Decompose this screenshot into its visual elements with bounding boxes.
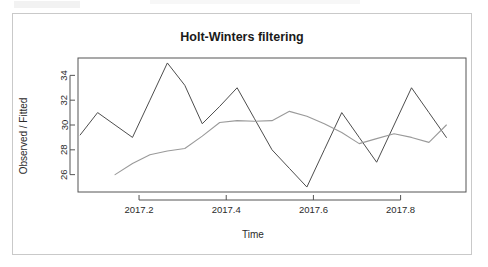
x-axis-title: Time <box>242 229 264 240</box>
x-axis-tick-label: 2017.6 <box>299 204 328 215</box>
y-axis-tick-label: 34 <box>59 70 70 81</box>
y-axis-tick-label: 30 <box>59 120 70 131</box>
scan-smudge-left <box>14 1 80 8</box>
x-axis-tick-label: 2017.2 <box>125 204 154 215</box>
y-axis-tick-label: 26 <box>59 169 70 180</box>
holt-winters-chart: Holt-Winters filtering Observed / Fitted… <box>13 14 471 254</box>
scan-edge-artifact <box>0 0 488 11</box>
y-axis-title: Observed / Fitted <box>18 98 29 175</box>
series-layer <box>80 63 446 187</box>
y-axis-tick-label: 28 <box>59 145 70 156</box>
y-axis-tick-label: 32 <box>59 95 70 106</box>
x-axis-tick-label: 2017.4 <box>212 204 241 215</box>
chart-title: Holt-Winters filtering <box>180 30 304 44</box>
plot-area-border <box>78 58 466 192</box>
x-axis: 2017.22017.42017.62017.8 <box>125 195 416 215</box>
series-line-fitted <box>115 111 446 174</box>
screenshot-root: Holt-Winters filtering Observed / Fitted… <box>0 0 488 267</box>
figure-frame: Holt-Winters filtering Observed / Fitted… <box>12 13 472 255</box>
series-line-observed <box>80 63 446 187</box>
scan-smudge-center <box>150 0 360 4</box>
x-axis-tick-label: 2017.8 <box>386 204 415 215</box>
y-axis: 2628303234 <box>59 70 76 180</box>
